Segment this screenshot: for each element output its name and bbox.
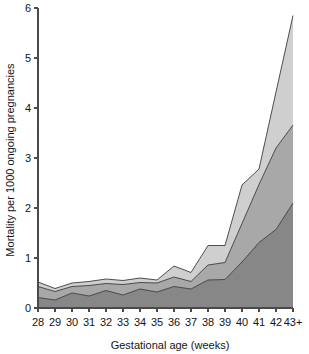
x-axis-ticks <box>38 308 293 312</box>
x-tick-label-42: 42 <box>270 316 282 328</box>
y-tick-label-1: 1 <box>25 252 31 264</box>
y-tick-label-0: 0 <box>25 302 31 314</box>
chart-figure: 0123456 28293031323334353637383940414243… <box>0 0 309 354</box>
x-tick-label-37: 37 <box>185 316 197 328</box>
x-tick-label-28: 28 <box>32 316 44 328</box>
y-tick-label-2: 2 <box>25 202 31 214</box>
x-tick-label-39: 39 <box>219 316 231 328</box>
y-tick-label-6: 6 <box>25 2 31 14</box>
x-tick-label-29: 29 <box>49 316 61 328</box>
x-tick-label-31: 31 <box>83 316 95 328</box>
y-axis-title: Mortality per 1000 ongoing pregnancies <box>4 63 16 257</box>
plot-areas <box>38 16 293 309</box>
y-tick-label-5: 5 <box>25 52 31 64</box>
x-tick-label-35: 35 <box>151 316 163 328</box>
x-tick-label-38: 38 <box>202 316 214 328</box>
x-tick-label-33: 33 <box>117 316 129 328</box>
x-tick-labels: 28293031323334353637383940414243+ <box>32 316 302 328</box>
x-tick-label-30: 30 <box>66 316 78 328</box>
y-tick-labels: 0123456 <box>25 2 31 314</box>
area-chart: 0123456 28293031323334353637383940414243… <box>0 0 309 354</box>
x-tick-label-32: 32 <box>100 316 112 328</box>
x-tick-label-41: 41 <box>253 316 265 328</box>
y-tick-label-3: 3 <box>25 152 31 164</box>
x-tick-label-40: 40 <box>236 316 248 328</box>
y-tick-label-4: 4 <box>25 102 31 114</box>
x-tick-label-34: 34 <box>134 316 146 328</box>
y-axis-ticks <box>34 8 38 308</box>
x-tick-label-36: 36 <box>168 316 180 328</box>
x-tick-label-43+: 43+ <box>284 316 303 328</box>
x-axis-title: Gestational age (weeks) <box>111 339 230 351</box>
